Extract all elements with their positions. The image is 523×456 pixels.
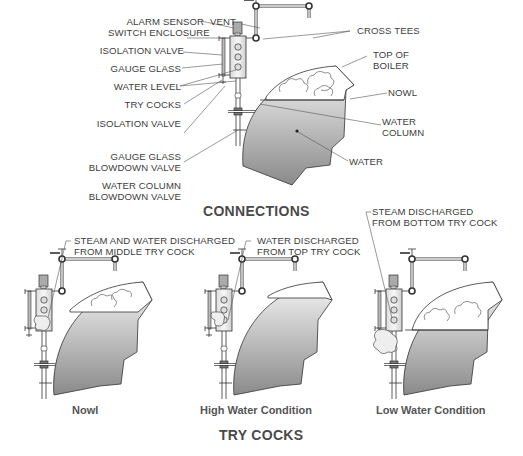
label-vent: VENT	[210, 17, 236, 28]
high-water-diagram	[205, 249, 332, 399]
label-water-level: WATER LEVEL	[88, 82, 181, 93]
nowl-diagram	[25, 249, 152, 399]
caption-nowl: Nowl	[72, 404, 98, 416]
callout-line: STEAM AND WATER DISCHARGED	[74, 236, 235, 247]
callout-line: FROM BOTTOM TRY COCK	[372, 218, 498, 229]
callout-nowl: STEAM AND WATER DISCHARGED FROM MIDDLE T…	[74, 236, 235, 257]
callout-line: FROM MIDDLE TRY COCK	[74, 247, 235, 258]
label-isolation-valve-top: ISOLATION VALVE	[88, 46, 184, 57]
label-top-of-boiler: TOP OF BOILER	[373, 50, 409, 71]
label-line: BLOWDOWN VALVE	[80, 192, 181, 203]
label-gauge-glass: GAUGE GLASS	[88, 64, 181, 75]
label-water-column-blowdown: WATER COLUMN BLOWDOWN VALVE	[80, 181, 181, 202]
connections-title: CONNECTIONS	[203, 203, 310, 219]
caption-low-water: Low Water Condition	[376, 404, 486, 416]
label-line: ALARM SENSOR	[108, 17, 204, 28]
label-line: COLUMN	[382, 128, 424, 139]
label-line: WATER COLUMN	[80, 181, 181, 192]
label-line: WATER	[382, 117, 424, 128]
label-line: BLOWDOWN VALVE	[80, 163, 181, 174]
label-cross-tees: CROSS TEES	[357, 26, 420, 37]
label-water: WATER	[349, 157, 383, 168]
label-gauge-glass-blowdown: GAUGE GLASS BLOWDOWN VALVE	[80, 152, 181, 173]
callout-line: WATER DISCHARGED	[257, 236, 361, 247]
label-alarm-sensor: ALARM SENSOR SWITCH ENCLOSURE	[108, 17, 204, 38]
label-water-column: WATER COLUMN	[382, 117, 424, 138]
label-line: TOP OF	[373, 50, 409, 61]
callout-low-water: STEAM DISCHARGED FROM BOTTOM TRY COCK	[372, 207, 498, 228]
diagram-artwork	[0, 0, 523, 456]
caption-high-water: High Water Condition	[200, 404, 312, 416]
low-water-diagram	[373, 249, 502, 399]
label-line: SWITCH ENCLOSURE	[108, 28, 204, 39]
label-nowl: NOWL	[388, 88, 417, 99]
callout-line: FROM TOP TRY COCK	[257, 247, 361, 258]
connections-diagram	[219, 0, 354, 185]
label-try-cocks: TRY COCKS	[88, 100, 181, 111]
callout-high-water: WATER DISCHARGED FROM TOP TRY COCK	[257, 236, 361, 257]
label-line: GAUGE GLASS	[80, 152, 181, 163]
label-line: BOILER	[373, 61, 409, 72]
callout-line: STEAM DISCHARGED	[372, 207, 498, 218]
try-cocks-title: TRY COCKS	[219, 427, 303, 443]
label-isolation-valve-bottom: ISOLATION VALVE	[88, 119, 181, 130]
